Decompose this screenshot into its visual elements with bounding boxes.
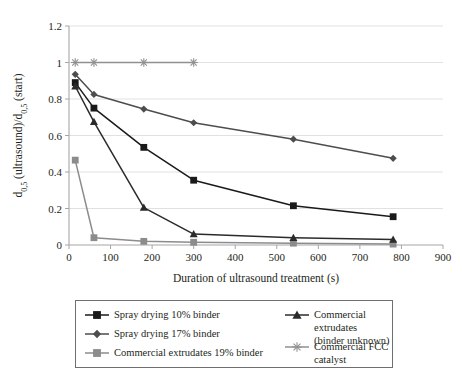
marker-square — [140, 238, 147, 245]
y-tick-label: 0.6 — [48, 130, 62, 142]
marker-triangle — [90, 118, 98, 125]
x-tick-label: 0 — [66, 251, 72, 263]
marker-square — [290, 202, 297, 209]
chart-figure: 00.20.40.60.811.201002003004005006007008… — [0, 0, 463, 387]
legend-item-label: Spray drying 17% binder — [114, 326, 220, 340]
legend-symbol-triangle — [284, 308, 310, 322]
square-marker-icon — [84, 308, 110, 323]
x-tick-label: 300 — [185, 251, 202, 263]
legend-column-right: Commercial extrudates (binder unknown)Co… — [284, 307, 392, 358]
legend-column-left: Spray drying 10% binderSpray drying 17% … — [84, 307, 274, 364]
triangle-marker-icon — [284, 308, 310, 323]
marker-diamond — [190, 119, 197, 126]
legend-item: Spray drying 17% binder — [84, 326, 274, 343]
legend-item-label: Commercial extrudates 19% binder — [114, 345, 263, 359]
legend-item: Commercial extrudates (binder unknown) — [284, 307, 392, 337]
series-2 — [72, 157, 397, 248]
marker-square — [390, 213, 397, 220]
marker-square — [72, 157, 79, 164]
y-tick-label: 0 — [57, 239, 63, 251]
diamond-marker-icon — [84, 327, 110, 342]
x-tick-label: 500 — [269, 251, 286, 263]
y-tick-label: 0.4 — [48, 166, 62, 178]
legend-item: Commercial extrudates 19% binder — [84, 345, 274, 362]
line-chart-svg: 00.20.40.60.811.201002003004005006007008… — [0, 0, 463, 295]
x-tick-label: 800 — [393, 251, 410, 263]
x-tick-label: 200 — [144, 251, 161, 263]
legend-item-label: Commercial FCC catalyst — [314, 339, 392, 366]
legend-item: Spray drying 10% binder — [84, 307, 274, 324]
asterisk-marker-icon — [284, 340, 310, 355]
series-3 — [71, 82, 397, 243]
marker-diamond — [290, 136, 297, 143]
marker-diamond — [390, 155, 397, 162]
marker-square — [190, 239, 197, 246]
marker-square — [93, 311, 101, 319]
y-tick-label: 1.2 — [48, 20, 62, 32]
x-tick-label: 600 — [310, 251, 327, 263]
legend-symbol-diamond — [84, 327, 110, 341]
x-tick-label: 700 — [352, 251, 369, 263]
marker-square — [91, 234, 98, 241]
marker-square — [140, 144, 147, 151]
marker-diamond — [93, 330, 101, 338]
x-tick-label: 900 — [435, 251, 452, 263]
marker-triangle — [140, 204, 148, 211]
legend-symbol-asterisk — [284, 340, 310, 354]
legend-item: Commercial FCC catalyst — [284, 339, 392, 356]
y-tick-label: 0.8 — [48, 93, 62, 105]
marker-diamond — [140, 105, 147, 112]
legend-symbol-square — [84, 346, 110, 360]
marker-square — [190, 177, 197, 184]
legend-symbol-square — [84, 308, 110, 322]
y-tick-label: 0.2 — [48, 203, 62, 215]
series-4 — [71, 58, 198, 66]
plot-area: 00.20.40.60.811.201002003004005006007008… — [0, 0, 463, 295]
series-1 — [72, 71, 397, 162]
square-marker-icon — [84, 346, 110, 361]
x-axis-title: Duration of ultrasound treatment (s) — [173, 272, 339, 285]
chart-legend: Spray drying 10% binderSpray drying 17% … — [75, 300, 393, 368]
series-line — [75, 74, 393, 158]
x-tick-label: 100 — [102, 251, 119, 263]
y-axis-title: d0,5 (ultrasound)/d0,5 (start) — [12, 73, 29, 197]
x-tick-label: 400 — [227, 251, 244, 263]
series-line — [75, 86, 393, 239]
marker-square — [93, 349, 101, 357]
marker-square — [91, 105, 98, 112]
y-tick-label: 1 — [57, 57, 63, 69]
legend-item-label: Spray drying 10% binder — [114, 307, 220, 321]
